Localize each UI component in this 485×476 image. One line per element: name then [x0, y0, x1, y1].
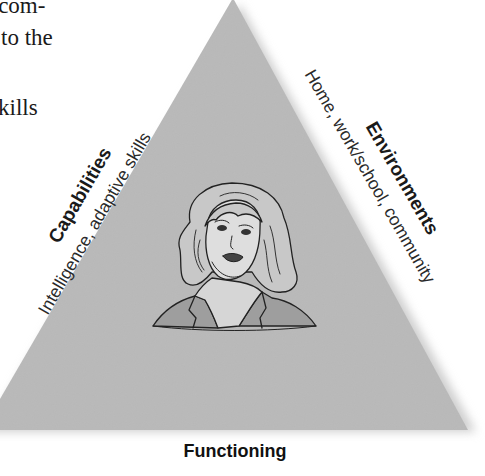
diagram-canvas: l com- to the kills [0, 0, 485, 476]
functioning-label: Functioning [0, 441, 470, 462]
